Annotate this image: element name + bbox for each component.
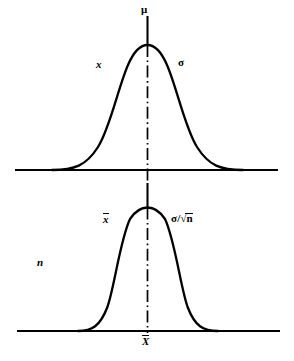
sample-size-label: n xyxy=(37,257,43,268)
grand-mean-label: X xyxy=(142,335,149,347)
sample-mean-label: x xyxy=(103,213,109,225)
sample-mean-label-text: x xyxy=(103,213,109,225)
population-distribution-panel xyxy=(15,16,278,183)
statistics-figure: μ x σ x σ/√n n X xyxy=(0,0,294,361)
population-variable-label: x xyxy=(96,59,102,70)
standard-error-radical: √n xyxy=(180,212,192,224)
standard-error-numerator: σ/ xyxy=(171,213,180,224)
population-mean-label: μ xyxy=(141,4,147,15)
sampling-distribution-panel xyxy=(17,183,280,333)
grand-mean-label-text: X xyxy=(142,335,149,347)
standard-error-label: σ/√n xyxy=(171,212,193,224)
distribution-plot-svg xyxy=(0,0,294,361)
population-standard-deviation-label: σ xyxy=(178,57,184,68)
